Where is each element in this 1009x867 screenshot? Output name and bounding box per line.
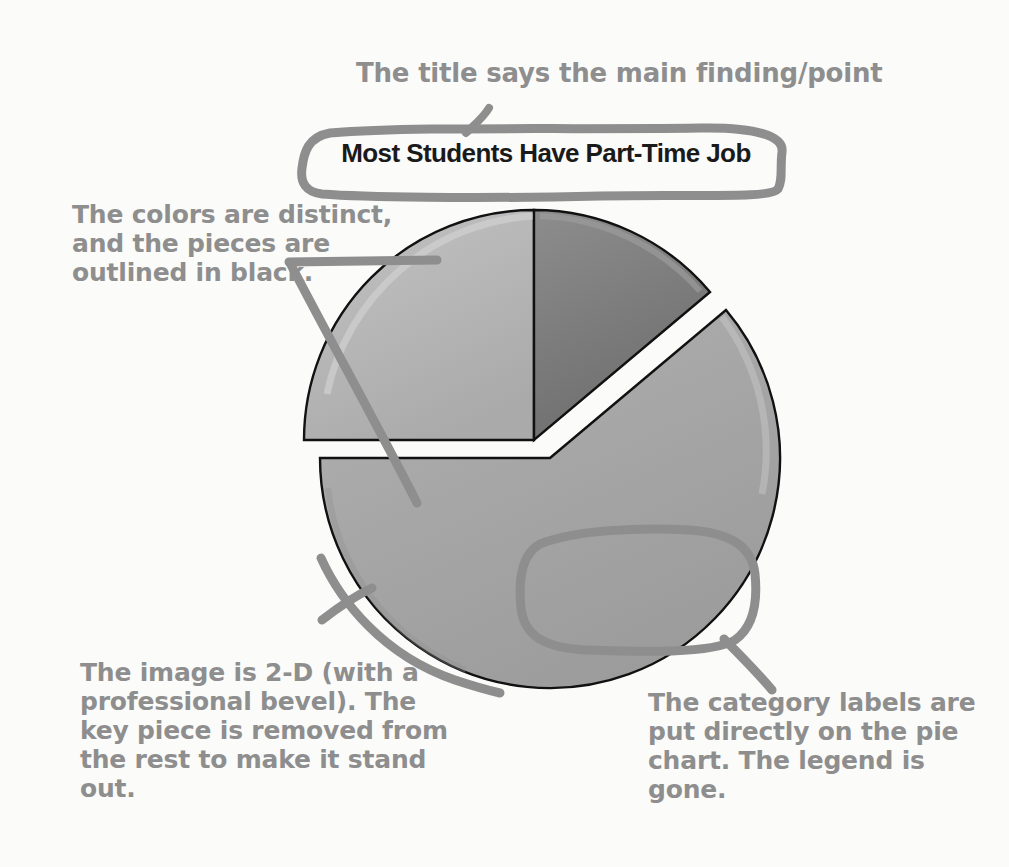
bevel-leader-line — [321, 558, 500, 693]
marker-annotation-layer — [0, 0, 1009, 867]
figure-canvas: The title says the main finding/point Th… — [0, 0, 1009, 867]
title-circle-marker — [302, 128, 782, 198]
part-time-label-circle-marker — [520, 529, 756, 651]
colors-leader-line — [289, 260, 437, 262]
colors-leader-diagonal — [290, 263, 417, 503]
bevel-leader-branch — [322, 588, 372, 620]
labels-leader-line — [724, 639, 772, 690]
